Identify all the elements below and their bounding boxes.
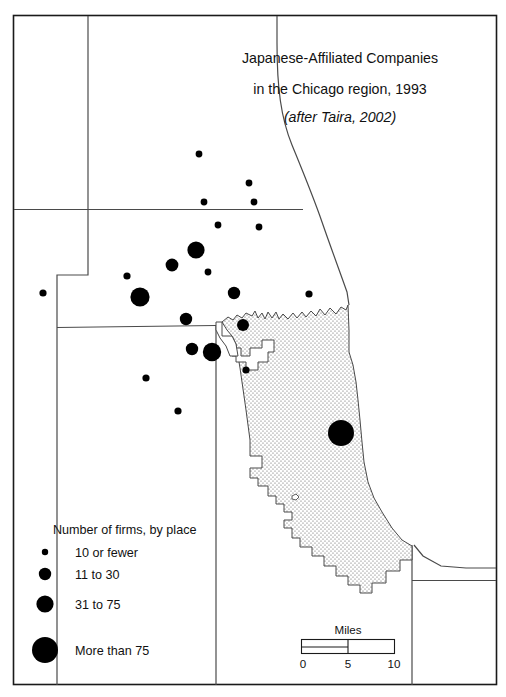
firm-symbol (166, 259, 179, 272)
firm-symbol (39, 289, 46, 296)
scale-tick-0: 0 (300, 657, 306, 670)
scale-tick-10: 10 (388, 657, 401, 670)
firm-symbol (201, 199, 208, 206)
scale-units-label: Miles (334, 623, 361, 636)
title-line-2: in the Chicago region, 1993 (253, 81, 427, 97)
firm-symbol (215, 222, 222, 229)
firm-symbol (196, 151, 203, 158)
legend-heading: Number of firms, by place (53, 523, 196, 537)
legend-label-1: 10 or fewer (75, 546, 138, 560)
firm-symbol (123, 272, 130, 279)
firm-symbol (328, 420, 354, 446)
firm-symbol (187, 241, 204, 258)
legend-symbol-2 (39, 568, 51, 580)
legend-label-2: 11 to 30 (75, 568, 120, 582)
legend-symbol-3 (36, 595, 53, 612)
firm-symbol (205, 269, 212, 276)
firm-symbol (174, 407, 181, 414)
map-canvas: Number of firms, by place 10 or fewer11 … (0, 0, 506, 697)
firm-symbol (130, 287, 149, 306)
firm-symbol (251, 199, 258, 206)
legend-symbol-1 (42, 549, 48, 555)
map-figure: Number of firms, by place 10 or fewer11 … (0, 0, 506, 697)
firm-symbol (305, 290, 312, 297)
firm-symbol (242, 366, 249, 373)
title-line-3-citation: (after Taira, 2002) (284, 109, 396, 125)
legend-label-4: More than 75 (75, 644, 149, 658)
firm-symbol (203, 343, 221, 361)
firm-symbol (237, 319, 249, 331)
legend-symbol-4 (32, 637, 58, 663)
legend-label-3: 31 to 75 (75, 598, 121, 612)
firm-symbol (256, 224, 263, 231)
firm-symbol (180, 313, 192, 325)
firm-symbol (246, 180, 253, 187)
title-line-1: Japanese-Affiliated Companies (242, 50, 438, 66)
firm-symbol (186, 343, 198, 355)
firm-symbol (228, 287, 240, 299)
firm-symbol (142, 374, 149, 381)
scale-tick-5: 5 (345, 657, 351, 670)
